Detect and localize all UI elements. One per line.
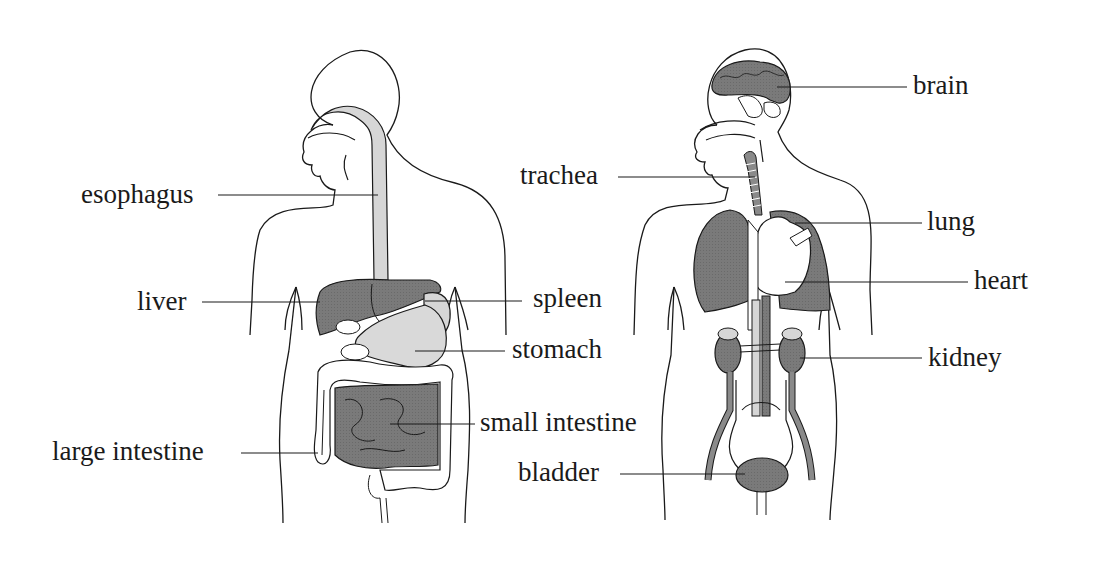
label-heart: heart [974,267,1028,294]
small-intestine-organ [335,384,438,523]
label-stomach: stomach [512,336,602,363]
label-kidney: kidney [928,344,1002,371]
label-lung: lung [927,208,975,235]
label-spleen: spleen [533,285,602,312]
label-large-intestine: large intestine [52,438,204,465]
vessels [752,296,770,416]
label-esophagus: esophagus [81,181,193,208]
label-small-intestine: small intestine [480,409,637,436]
trachea-organ [744,151,762,215]
label-bladder: bladder [518,459,599,486]
esophagus-organ [308,106,388,280]
label-trachea: trachea [520,162,598,189]
label-brain: brain [913,72,968,99]
anatomy-diagram: esophagus liver spleen stomach small int… [0,0,1097,563]
bladder-organ [736,458,788,515]
label-liver: liver [137,288,186,315]
brain-organ [712,61,790,118]
